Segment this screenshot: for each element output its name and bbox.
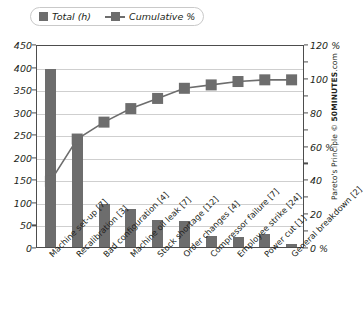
attribution-prefix: Pareto's Principle © bbox=[330, 121, 339, 200]
attribution-brand: 50MINUTES bbox=[330, 72, 339, 122]
attribution-text: Pareto's Principle © 50MINUTES.com bbox=[330, 53, 339, 200]
attribution-suffix: .com bbox=[330, 53, 339, 72]
